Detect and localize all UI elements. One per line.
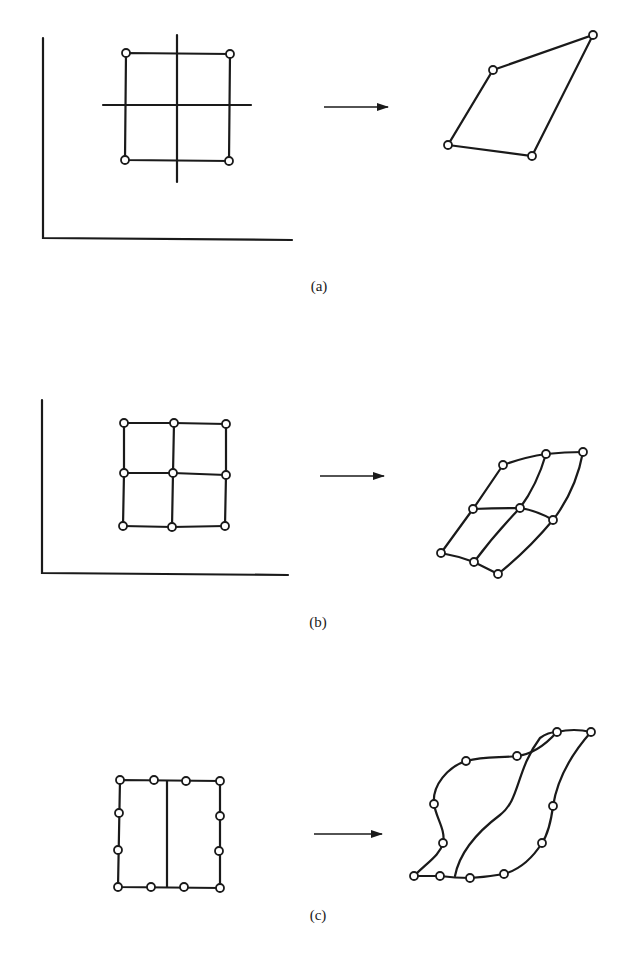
node — [528, 152, 536, 160]
mapped-nodes — [437, 448, 587, 578]
mapped-quad — [448, 35, 593, 156]
mapped-divider — [455, 732, 557, 876]
node — [226, 50, 234, 58]
axes — [42, 400, 288, 575]
mapped-bottom-edge — [414, 874, 504, 878]
panel-a-source — [43, 35, 292, 240]
caption-a: (a) — [311, 278, 328, 295]
caption-c: (c) — [310, 907, 327, 924]
node — [444, 141, 452, 149]
panel-c-source — [114, 776, 224, 892]
panel-c-target — [410, 728, 595, 882]
panel-b-target — [437, 448, 587, 578]
panel-b-source — [42, 400, 288, 575]
mapped-nodes — [410, 728, 595, 882]
panel-b — [42, 400, 587, 578]
axes — [43, 38, 292, 240]
mapping-figure — [0, 0, 631, 958]
caption-b: (b) — [309, 614, 327, 631]
node — [122, 49, 130, 57]
node — [489, 66, 497, 74]
rect-nodes — [114, 776, 224, 892]
node — [589, 31, 597, 39]
mapped-top-edge — [557, 730, 591, 732]
panel-a-target — [444, 31, 597, 160]
element-rect — [118, 780, 220, 888]
panel-a — [43, 31, 597, 240]
panel-c — [114, 728, 595, 892]
node — [121, 156, 129, 164]
node — [225, 157, 233, 165]
